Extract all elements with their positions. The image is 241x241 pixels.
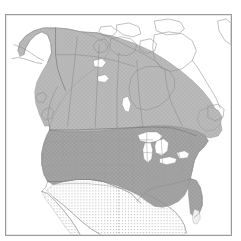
range-map-figure: Breeding range Year-round range Winterin…: [0, 0, 241, 241]
north-america-map: [6, 15, 231, 235]
map-frame: [5, 14, 232, 236]
